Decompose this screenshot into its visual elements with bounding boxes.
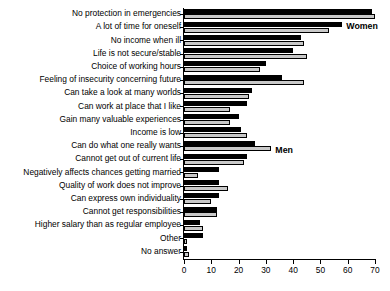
bar-women	[184, 22, 342, 27]
legend-label-women: Women	[346, 22, 378, 31]
category-label: Income is low	[130, 128, 181, 136]
category-label: Higher salary than as regular employee	[35, 220, 181, 228]
y-tick	[180, 186, 184, 187]
x-tick	[211, 260, 212, 264]
y-tick	[180, 27, 184, 28]
bar-men	[184, 80, 304, 85]
bar-women	[184, 220, 200, 225]
bar-men	[184, 160, 244, 165]
category-label: No answer	[141, 247, 181, 255]
category-label: Gain many valuable experiences	[59, 115, 181, 123]
bar-women	[184, 180, 219, 185]
y-tick	[180, 146, 184, 147]
category-label: Life is not secure/stable	[93, 49, 181, 57]
y-tick	[180, 159, 184, 160]
bar-women	[184, 9, 372, 14]
bar-men	[184, 54, 307, 59]
y-tick	[180, 252, 184, 253]
category-label: Can do what one really wants	[71, 141, 181, 149]
bar-women	[184, 193, 219, 198]
bar-women	[184, 167, 219, 172]
category-label: Cannot get out of current life	[75, 154, 181, 162]
x-tick	[184, 260, 185, 264]
y-tick	[180, 40, 184, 41]
category-label: No protection in emergencies	[72, 9, 181, 17]
legend-label-men: Men	[275, 146, 293, 155]
bar-women	[184, 101, 247, 106]
y-tick	[180, 54, 184, 55]
bar-women	[184, 35, 301, 40]
x-tick-label: 40	[283, 266, 303, 275]
bar-men	[184, 14, 375, 19]
x-tick-label: 0	[174, 266, 194, 275]
bar-men	[184, 212, 217, 217]
bar-women	[184, 114, 239, 119]
y-tick	[180, 14, 184, 15]
y-tick	[180, 106, 184, 107]
category-label: A lot of time for oneself	[96, 22, 181, 30]
x-tick	[348, 260, 349, 264]
bar-women	[184, 233, 203, 238]
y-tick	[180, 67, 184, 68]
y-tick	[180, 225, 184, 226]
x-tick-label: 50	[310, 266, 330, 275]
category-label: Can take a look at many worlds	[64, 88, 181, 96]
category-label: Choice of working hours	[91, 62, 181, 70]
bar-men	[184, 226, 203, 231]
x-tick-label: 70	[365, 266, 385, 275]
category-label: Other	[160, 234, 181, 242]
bar-women	[184, 207, 217, 212]
x-tick	[293, 260, 294, 264]
plot-area	[184, 8, 376, 258]
y-tick	[180, 238, 184, 239]
bar-women	[184, 88, 252, 93]
y-axis-line	[183, 8, 184, 260]
bar-men	[184, 94, 249, 99]
bar-men	[184, 146, 271, 151]
bar-men	[184, 67, 260, 72]
bar-women	[184, 246, 187, 251]
bar-men	[184, 186, 228, 191]
bar-women	[184, 75, 282, 80]
y-tick	[180, 199, 184, 200]
y-tick	[180, 133, 184, 134]
bar-men	[184, 28, 329, 33]
bar-men	[184, 239, 187, 244]
bar-women	[184, 48, 293, 53]
y-tick	[180, 93, 184, 94]
category-label: Cannot get responsibilities	[83, 207, 181, 215]
x-tick-label: 60	[338, 266, 358, 275]
bar-men	[184, 252, 189, 257]
category-label: Can work at place that I like	[78, 102, 181, 110]
bar-men	[184, 41, 304, 46]
bar-men	[184, 173, 198, 178]
category-label: Can express own individuality	[71, 194, 181, 202]
x-tick	[266, 260, 267, 264]
horizontal-bar-chart: No protection in emergenciesA lot of tim…	[0, 0, 390, 291]
y-tick	[180, 212, 184, 213]
x-tick-label: 10	[201, 266, 221, 275]
bar-men	[184, 199, 211, 204]
x-tick-label: 20	[229, 266, 249, 275]
bar-men	[184, 107, 230, 112]
bar-women	[184, 61, 266, 66]
bar-men	[184, 120, 230, 125]
y-tick	[180, 172, 184, 173]
x-tick	[320, 260, 321, 264]
bar-men	[184, 133, 247, 138]
bar-women	[184, 154, 247, 159]
x-tick	[375, 260, 376, 264]
x-tick-label: 30	[256, 266, 276, 275]
category-label: Quality of work does not improve	[59, 181, 181, 189]
category-label: No income when ill	[111, 36, 181, 44]
y-tick	[180, 120, 184, 121]
category-label: Negatively affects chances getting marri…	[23, 168, 181, 176]
y-tick	[180, 80, 184, 81]
x-tick	[239, 260, 240, 264]
bar-women	[184, 127, 241, 132]
category-label: Feeling of insecurity concerning future	[39, 75, 181, 83]
category-labels: No protection in emergenciesA lot of tim…	[0, 0, 181, 291]
bar-women	[184, 141, 255, 146]
